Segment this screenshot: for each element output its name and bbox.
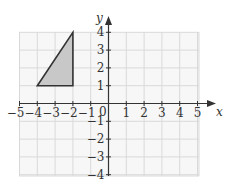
y-tick-label: 1 — [97, 79, 105, 93]
coordinate-plane: −5−4−3−2−112345 4321−1−2−3−4 0 x y — [0, 0, 228, 189]
x-tick-label: 3 — [158, 106, 166, 120]
x-axis-label: x — [216, 105, 223, 119]
x-tick-label: −3 — [42, 106, 60, 120]
x-tick-label: 5 — [194, 106, 202, 120]
y-axis-label: y — [95, 11, 103, 25]
y-tick-label: 3 — [97, 43, 105, 57]
x-tick-label: 4 — [176, 106, 184, 120]
x-tick-label: 1 — [122, 106, 130, 120]
x-tick-label: −2 — [60, 106, 78, 120]
y-tick-label: 4 — [97, 25, 105, 39]
y-axis-arrow-icon — [105, 16, 112, 25]
x-tick-label: −4 — [24, 106, 42, 120]
y-tick-label: −2 — [87, 132, 105, 146]
x-tick-label: 2 — [140, 106, 148, 120]
y-tick-label: 2 — [97, 61, 105, 75]
x-axis-arrow-icon — [207, 100, 216, 107]
y-tick-label: −3 — [87, 150, 105, 164]
x-tick-label: −5 — [7, 106, 25, 120]
origin-label: 0 — [99, 105, 107, 119]
y-tick-label: −4 — [87, 168, 105, 182]
